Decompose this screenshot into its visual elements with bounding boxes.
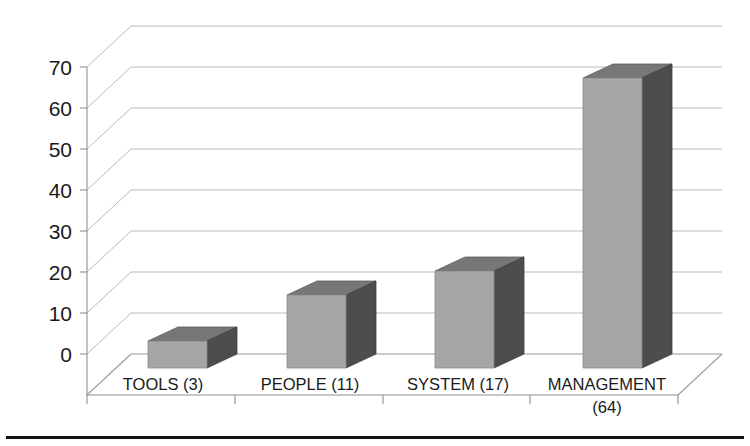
bar-tools[interactable] xyxy=(148,327,237,368)
bottom-divider xyxy=(6,436,744,439)
bar-chart: 70 60 50 40 30 20 10 0 xyxy=(0,0,750,446)
bar-system[interactable] xyxy=(435,257,524,368)
y-tick-label-0: 0 xyxy=(60,343,72,366)
y-tick-label-60: 60 xyxy=(49,97,72,120)
x-label-tools: TOOLS (3) xyxy=(123,375,203,393)
gridline-top xyxy=(87,26,722,67)
y-axis-tick-labels: 70 60 50 40 30 20 10 0 xyxy=(49,56,72,366)
bar-system-side xyxy=(494,257,524,368)
x-label-people: PEOPLE (11) xyxy=(261,375,360,393)
floor-right-edge xyxy=(678,354,722,395)
y-tick-label-10: 10 xyxy=(49,302,72,325)
bar-people[interactable] xyxy=(287,281,376,368)
y-tick-label-70: 70 xyxy=(49,56,72,79)
bar-people-side xyxy=(346,281,376,368)
bar-people-front xyxy=(287,295,346,368)
chart-canvas: 70 60 50 40 30 20 10 0 xyxy=(0,0,750,446)
bar-tools-front xyxy=(148,341,207,368)
bar-management-front xyxy=(583,78,642,368)
x-label-system: SYSTEM (17) xyxy=(407,375,509,393)
bar-management[interactable] xyxy=(583,64,672,368)
y-tick-label-50: 50 xyxy=(49,138,72,161)
x-label-management-second-line: (64) xyxy=(592,398,621,416)
x-label-management: MANAGEMENT xyxy=(548,375,666,393)
y-axis-ticks xyxy=(80,67,87,354)
bar-management-side xyxy=(642,64,672,368)
y-tick-label-20: 20 xyxy=(49,261,72,284)
y-tick-label-30: 30 xyxy=(49,220,72,243)
y-tick-label-40: 40 xyxy=(49,179,72,202)
bar-system-front xyxy=(435,271,494,368)
x-axis-ticks xyxy=(87,395,678,404)
